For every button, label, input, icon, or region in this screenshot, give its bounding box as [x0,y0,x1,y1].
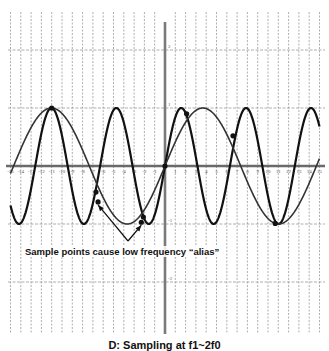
sample-point [95,199,100,204]
sample-point [93,190,98,195]
x-tick-label: 9 [256,169,259,174]
x-tick-label: -1 [153,169,158,174]
x-tick-label: 4 [205,169,208,174]
x-tick-label: 5 [215,169,218,174]
x-tick-label: 7 [236,169,239,174]
figure-caption: D: Sampling at f1~2f0 [0,339,329,351]
x-tick-label: -14 [17,169,24,174]
y-tick-label: 1 [168,102,171,107]
x-tick-label: 13 [296,169,302,174]
x-tick-label: 1 [174,169,177,174]
sample-point [49,105,54,110]
y-tick-label: 2 [168,44,171,49]
x-tick-label: -6 [101,169,106,174]
x-tick-label: -11 [48,169,55,174]
sample-point [273,221,278,226]
sample-point [141,214,146,219]
y-tick-label: -2 [168,276,173,281]
x-tick-label: -9 [70,169,75,174]
sample-point [162,163,167,168]
x-tick-label: -4 [122,169,127,174]
y-tick-label: -1 [168,218,173,223]
x-tick-label: 2 [184,169,187,174]
x-tick-label: 8 [246,169,249,174]
sample-point [139,220,144,225]
x-tick-label: 11 [276,169,281,174]
x-tick-label: 15 [317,169,323,174]
x-tick-label: 12 [286,169,292,174]
x-tick-label: -8 [81,169,86,174]
sample-point [230,133,235,138]
x-tick-label: -2 [142,169,147,174]
x-tick-label: -5 [111,169,116,174]
x-tick-label: -12 [38,169,45,174]
x-tick-label: 14 [307,169,313,174]
alias-annotation: Sample points cause low frequency “alias… [24,246,220,257]
x-tick-label: 10 [266,169,272,174]
x-tick-label: -10 [59,169,66,174]
sample-point [184,111,189,116]
